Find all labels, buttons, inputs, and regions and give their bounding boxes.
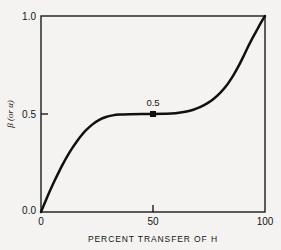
x-tick-label-100: 100 [257,216,274,227]
chart-svg: 1.0 0.5 0.0 0 50 100 PERCENT TRANSFER OF… [0,0,281,250]
x-axis-title: PERCENT TRANSFER OF H [88,234,218,244]
y-tick-label-bottom: 0.0 [22,205,36,216]
x-tick-label-50: 50 [147,216,159,227]
chart-figure: 1.0 0.5 0.0 0 50 100 PERCENT TRANSFER OF… [0,0,281,250]
midpoint-label: 0.5 [146,97,159,108]
y-tick-label-mid: 0.5 [22,109,36,120]
midpoint-marker [150,111,156,117]
x-tick-label-0: 0 [38,216,44,227]
y-tick-label-top: 1.0 [22,11,36,22]
y-axis-title: β (or α) [5,100,15,129]
